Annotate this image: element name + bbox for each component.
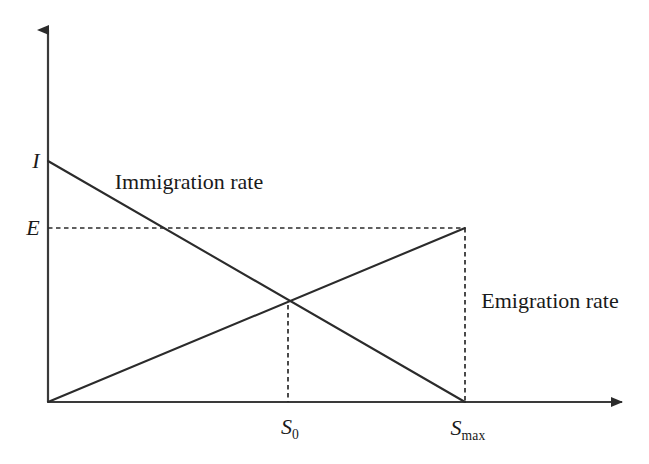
axis-label-I: I	[32, 150, 39, 172]
emigration-rate-line	[48, 228, 465, 402]
axis-label-E: E	[26, 217, 39, 239]
figure-canvas: I E S0 Smax Immigration rate Emigration …	[0, 0, 649, 464]
axis-label-Smax: Smax	[450, 417, 485, 439]
axis-label-Smax-subscript: max	[461, 428, 485, 443]
axis-label-Smax-base: S	[450, 415, 461, 440]
immigration-rate-label: Immigration rate	[115, 171, 263, 193]
axis-label-S0: S0	[281, 416, 299, 438]
plot-area	[0, 0, 649, 464]
immigration-rate-line	[48, 161, 465, 402]
emigration-rate-label: Emigration rate	[481, 290, 618, 312]
axis-label-S0-base: S	[281, 414, 292, 439]
axis-label-S0-subscript: 0	[292, 427, 299, 442]
